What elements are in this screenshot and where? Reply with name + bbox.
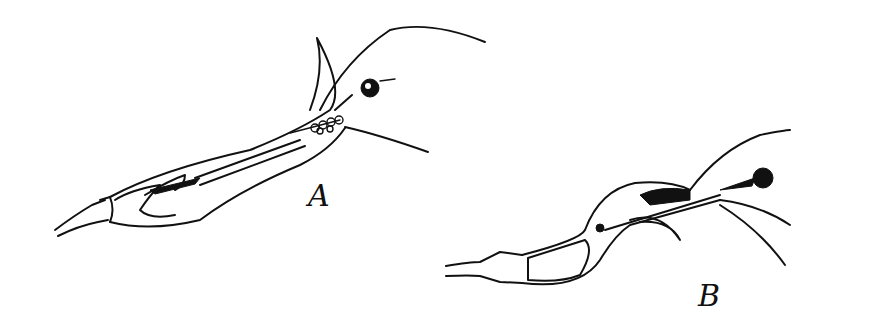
panel-label-a: A bbox=[308, 178, 330, 213]
figure-a-drawing bbox=[55, 27, 485, 236]
panel-label-b: B bbox=[698, 278, 720, 313]
figure-b-drawing bbox=[446, 130, 790, 284]
illustration bbox=[0, 0, 874, 330]
